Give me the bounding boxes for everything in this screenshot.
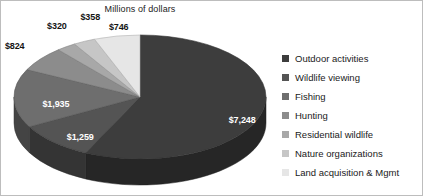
legend-swatch-icon — [282, 131, 289, 138]
pie-chart-figure: Millions of dollars $7,248$1,259$1,935$8… — [1, 1, 422, 195]
pie-slice-value-label: $7,248 — [229, 115, 256, 125]
legend-swatch-icon — [282, 150, 289, 157]
legend-item[interactable]: Residential wildlife — [282, 125, 422, 144]
legend-item-label: Land acquisition & Mgmt — [295, 168, 399, 178]
legend-item-label: Wildlife viewing — [295, 73, 360, 83]
legend-item-label: Hunting — [295, 111, 328, 121]
legend-item[interactable]: Outdoor activities — [282, 49, 422, 68]
legend-item[interactable]: Fishing — [282, 87, 422, 106]
pie-plot-area: $7,248$1,259$1,935$824$320$358$746 — [1, 19, 279, 195]
legend-swatch-icon — [282, 112, 289, 119]
chart-title: Millions of dollars — [1, 4, 279, 14]
legend-item-label: Fishing — [295, 92, 326, 102]
pie-slice-value-label: $746 — [109, 22, 129, 32]
legend-item-label: Outdoor activities — [295, 54, 368, 64]
pie-slice-value-label: $358 — [80, 12, 100, 22]
legend-item-label: Residential wildlife — [295, 130, 373, 140]
pie-slice-value-label: $320 — [47, 21, 67, 31]
pie-slice-value-label: $1,259 — [67, 132, 94, 142]
legend-item[interactable]: Land acquisition & Mgmt — [282, 163, 422, 182]
legend-swatch-icon — [282, 169, 289, 176]
legend-swatch-icon — [282, 93, 289, 100]
legend-item-label: Nature organizations — [295, 149, 383, 159]
legend-swatch-icon — [282, 55, 289, 62]
legend-item[interactable]: Nature organizations — [282, 144, 422, 163]
pie-top-faces — [14, 35, 266, 159]
chart-legend: Outdoor activitiesWildlife viewingFishin… — [282, 49, 422, 182]
pie-slice-value-label: $824 — [5, 41, 25, 51]
legend-swatch-icon — [282, 74, 289, 81]
pie-slice-value-label: $1,935 — [42, 99, 69, 109]
legend-item[interactable]: Hunting — [282, 106, 422, 125]
legend-item[interactable]: Wildlife viewing — [282, 68, 422, 87]
